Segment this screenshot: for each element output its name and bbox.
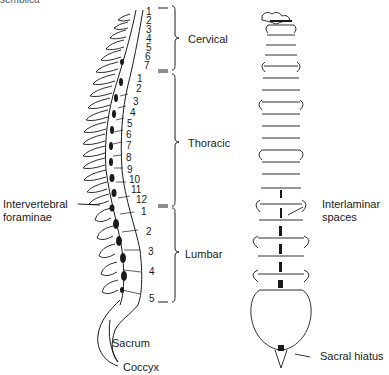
t6-label: 6 — [126, 130, 132, 139]
cervical-label: Cervical — [188, 33, 228, 45]
l3-label: 3 — [148, 247, 154, 256]
t12-label: 12 — [136, 195, 147, 204]
t10-label: 10 — [129, 175, 140, 184]
t7-label: 7 — [126, 141, 132, 150]
l2-label: 2 — [146, 227, 152, 236]
c7-label: 7 — [144, 61, 150, 70]
spine-illustration — [0, 0, 389, 375]
l1-label: 1 — [141, 207, 147, 216]
lumbar-label: Lumbar — [185, 248, 222, 260]
interlaminar-label-line2: spaces — [322, 211, 357, 223]
t3-label: 3 — [133, 97, 139, 106]
l4-label: 4 — [149, 267, 155, 276]
t2-label: 2 — [136, 84, 142, 93]
t1-label: 1 — [137, 74, 143, 83]
l5-label: 5 — [149, 294, 155, 303]
intervertebral-label-line1: Intervertebral — [3, 198, 68, 210]
sacrum-label: Sacrum — [112, 337, 150, 349]
intervertebral-label-line2: foraminae — [3, 211, 52, 223]
coccyx-label: Coccyx — [123, 361, 159, 373]
sacral-hiatus-label: Sacral hiatus — [320, 350, 384, 362]
t9-label: 9 — [127, 165, 133, 174]
t5-label: 5 — [127, 119, 133, 128]
t11-label: 11 — [131, 185, 141, 194]
interlaminar-label-line1: Interlaminar — [322, 198, 380, 210]
thoracic-label: Thoracic — [188, 137, 230, 149]
t8-label: 8 — [126, 153, 132, 162]
t4-label: 4 — [130, 108, 136, 117]
